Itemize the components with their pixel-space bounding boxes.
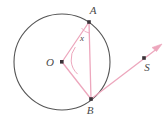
point-label-A: A: [89, 4, 97, 16]
point-marker-O: [60, 60, 64, 64]
geometry-figure: O A B S x: [0, 0, 168, 117]
segment-ray-BS: [91, 48, 158, 99]
segment-chord-AB: [89, 22, 91, 99]
segment-radius-OA: [62, 22, 89, 62]
angle-arc-at-O: [71, 47, 77, 74]
point-label-O: O: [46, 56, 54, 68]
point-label-B: B: [87, 104, 94, 116]
arrowhead-icon: [152, 44, 162, 52]
geometry-canvas: O A B S x: [0, 0, 168, 117]
point-marker-B: [89, 97, 93, 101]
angle-label-x: x: [79, 33, 84, 43]
point-label-S: S: [144, 61, 150, 73]
segment-radius-OB: [62, 62, 91, 99]
point-marker-A: [87, 20, 91, 24]
point-marker-S: [142, 56, 146, 60]
